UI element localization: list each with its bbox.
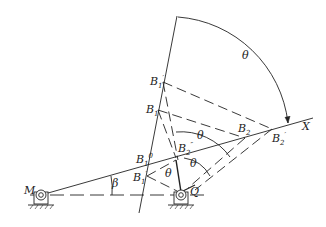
linkage-diagram: M Q X β θ θ θ θ B1′ B1 B10 B1′ B2 B2′ B2… (0, 0, 326, 227)
label-q: Q (190, 186, 199, 197)
dash-b1p-q (147, 176, 181, 193)
label-b2-prime: B2′ (272, 132, 286, 147)
dash-b1p-b2pp (163, 82, 178, 160)
label-theta-inner: θ (165, 168, 172, 179)
label-b1-zero: B10 (136, 153, 153, 168)
label-theta-top: θ (242, 50, 249, 61)
label-m: M (24, 185, 35, 196)
label-b2: B2 (238, 123, 251, 137)
label-b2-double-prime: B2″ (178, 142, 193, 157)
arc-theta-low (184, 158, 210, 176)
label-b1-prime-top: B1′ (150, 75, 164, 90)
label-x: X (302, 121, 310, 132)
diagram-canvas (0, 0, 326, 227)
label-theta-mid: θ (197, 130, 204, 141)
arc-theta-top (178, 17, 288, 123)
link-q (176, 160, 181, 192)
label-b1: B1 (146, 104, 159, 118)
dash-b2p-q (195, 129, 272, 190)
dash-b1p-b2p (163, 82, 272, 129)
label-b1-prime-low: B1′ (133, 171, 147, 186)
label-theta-low: θ (190, 158, 197, 169)
label-beta: β (112, 178, 118, 189)
